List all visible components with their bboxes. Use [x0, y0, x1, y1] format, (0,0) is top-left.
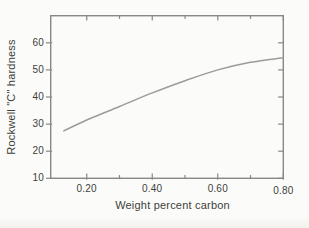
hardness-curve [64, 58, 283, 131]
y-tick-label-30: 30 [16, 118, 44, 130]
y-tick-label-50: 50 [16, 64, 44, 76]
y-tick-label-20: 20 [16, 145, 44, 157]
x-tick-label-020: 0.20 [72, 183, 102, 195]
y-tick-label-10: 10 [16, 172, 44, 184]
y-tick-label-40: 40 [16, 91, 44, 103]
x-tick-label-080: 0.80 [268, 185, 298, 197]
hardness-vs-carbon-figure: 60 50 40 30 20 10 0.20 0.40 0.60 0.80 We… [0, 0, 309, 228]
plot-frame [51, 16, 284, 179]
x-tick-label-040: 0.40 [137, 183, 167, 195]
y-axis-label: Rockwell "C" hardness [5, 39, 18, 154]
x-axis-label: Weight percent carbon [56, 199, 289, 212]
x-tick-label-060: 0.60 [203, 183, 233, 195]
y-tick-label-60: 60 [16, 37, 44, 49]
